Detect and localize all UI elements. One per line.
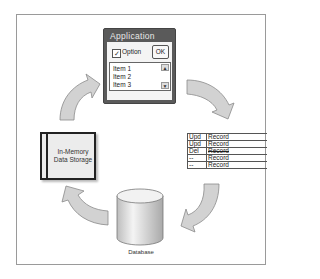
ok-button[interactable]: OK <box>152 45 169 59</box>
window-body: ✓ Option OK Item 1 Item 2 Item 3 ▲ ▼ <box>107 42 172 100</box>
option-checkbox[interactable]: ✓ <box>112 49 121 58</box>
list-item[interactable]: Item 1 <box>113 65 131 72</box>
arrow-up-right-icon <box>60 74 100 120</box>
arrow-down-left-icon <box>181 184 219 232</box>
window-title: Application <box>110 31 155 41</box>
op-cell: -- <box>188 162 207 169</box>
in-memory-storage-box: In-Memory Data Storage <box>40 132 96 180</box>
storage-label-line2: Data Storage <box>52 156 94 164</box>
arrow-down-right-icon <box>187 80 234 119</box>
list-scrollbar[interactable]: ▲ ▼ <box>161 64 169 89</box>
storage-bar-icon <box>46 134 48 178</box>
storage-label: In-Memory Data Storage <box>52 148 94 164</box>
arrow-up-left-icon <box>62 186 108 225</box>
list-item[interactable]: Item 2 <box>113 73 131 80</box>
scroll-down-icon[interactable]: ▼ <box>161 82 169 89</box>
list-item[interactable]: Item 3 <box>113 81 131 88</box>
item-listbox[interactable]: Item 1 Item 2 Item 3 ▲ ▼ <box>109 62 171 91</box>
record-table: UpdRecord UpdRecord DelRecord --Record -… <box>187 133 267 169</box>
scroll-up-icon[interactable]: ▲ <box>161 64 169 71</box>
application-window: Application ✓ Option OK Item 1 Item 2 It… <box>103 28 176 104</box>
record-cell: Record <box>207 162 268 169</box>
option-label: Option <box>122 48 141 55</box>
storage-label-line1: In-Memory <box>52 148 94 156</box>
table-row: --Record <box>188 162 268 169</box>
database-cylinder-icon <box>117 189 163 245</box>
database-label: Database <box>118 249 164 255</box>
